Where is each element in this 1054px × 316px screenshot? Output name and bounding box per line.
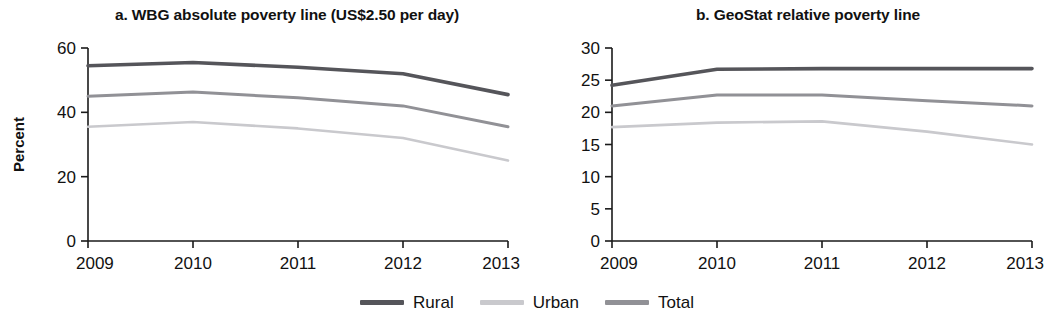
y-tick-label: 0 bbox=[591, 232, 600, 251]
legend-label-rural: Rural bbox=[413, 294, 454, 311]
x-tick-label: 2010 bbox=[698, 254, 736, 273]
chart-legend: RuralUrbanTotal bbox=[0, 288, 1054, 316]
series-line-rural bbox=[612, 69, 1032, 86]
chart-panel-a: a. WBG absolute poverty line (US$2.50 pe… bbox=[0, 0, 534, 285]
panel-a-plot: 020406020092010201120122013 bbox=[0, 0, 534, 285]
x-tick-label: 2012 bbox=[384, 254, 422, 273]
legend-item-rural: Rural bbox=[360, 294, 454, 311]
y-tick-label: 0 bbox=[67, 232, 76, 251]
series-line-rural bbox=[88, 62, 508, 94]
y-tick-label: 40 bbox=[57, 103, 76, 122]
panel-b-plot: 05101520253020092010201120122013 bbox=[534, 0, 1054, 285]
legend-item-urban: Urban bbox=[480, 294, 579, 311]
y-tick-label: 15 bbox=[581, 136, 600, 155]
x-tick-label: 2011 bbox=[804, 254, 841, 273]
x-tick-label: 2009 bbox=[76, 254, 114, 273]
legend-label-total: Total bbox=[658, 294, 694, 311]
y-tick-label: 5 bbox=[591, 200, 600, 219]
legend-label-urban: Urban bbox=[533, 294, 579, 311]
legend-swatch-rural bbox=[360, 300, 404, 305]
x-tick-label: 2010 bbox=[174, 254, 212, 273]
chart-panel-b: b. GeoStat relative poverty line Percent… bbox=[534, 0, 1054, 285]
poverty-line-figure: a. WBG absolute poverty line (US$2.50 pe… bbox=[0, 0, 1054, 316]
series-line-urban bbox=[88, 122, 508, 161]
series-line-total bbox=[612, 95, 1032, 106]
y-tick-label: 30 bbox=[581, 39, 600, 58]
x-tick-label: 2013 bbox=[482, 254, 520, 273]
y-tick-label: 20 bbox=[581, 103, 600, 122]
y-tick-label: 60 bbox=[57, 39, 76, 58]
y-tick-label: 20 bbox=[57, 168, 76, 187]
series-line-urban bbox=[612, 121, 1032, 144]
x-tick-label: 2011 bbox=[280, 254, 317, 273]
legend-swatch-urban bbox=[480, 300, 524, 305]
x-tick-label: 2009 bbox=[600, 254, 638, 273]
y-tick-label: 10 bbox=[581, 168, 600, 187]
y-tick-label: 25 bbox=[581, 71, 600, 90]
series-line-total bbox=[88, 92, 508, 127]
legend-swatch-total bbox=[605, 300, 649, 305]
x-tick-label: 2012 bbox=[908, 254, 946, 273]
x-tick-label: 2013 bbox=[1006, 254, 1044, 273]
legend-item-total: Total bbox=[605, 294, 694, 311]
